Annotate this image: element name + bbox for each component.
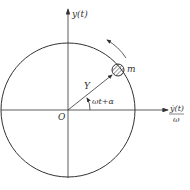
phasor-diagram: y(t) ẏ(t) ω O Y ωt+α m	[0, 0, 190, 190]
angle-label: ωt+α	[92, 97, 114, 106]
rotation-arrow	[107, 40, 126, 58]
y-axis-label: y(t)	[71, 9, 88, 19]
x-axis-label-numerator: ẏ(t)	[169, 104, 184, 113]
angle-arc	[87, 98, 90, 110]
radius-label: Y	[84, 81, 91, 91]
mass-label: m	[127, 64, 136, 74]
mass-ball	[112, 64, 124, 76]
origin-label: O	[58, 112, 66, 122]
x-axis-label-denominator: ω	[173, 115, 180, 124]
